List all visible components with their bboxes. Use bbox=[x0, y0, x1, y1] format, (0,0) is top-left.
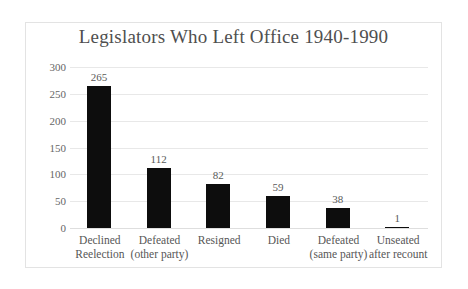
x-label-line1: Defeated bbox=[139, 234, 181, 246]
bar-value-label: 112 bbox=[130, 153, 188, 165]
bar-group[interactable]: 1 bbox=[368, 67, 426, 228]
y-axis-labels: 050100150200250300 bbox=[22, 67, 66, 228]
x-label-line1: Resigned bbox=[198, 234, 241, 246]
y-tick-label-200: 200 bbox=[26, 116, 66, 127]
bar[interactable] bbox=[266, 196, 290, 228]
bar-value-label: 1 bbox=[368, 212, 426, 224]
bar[interactable] bbox=[326, 208, 350, 228]
x-label-line1: Declined bbox=[79, 234, 121, 246]
y-tick-label-250: 250 bbox=[26, 89, 66, 100]
chart-title: Legislators Who Left Office 1940-1990 bbox=[25, 26, 442, 48]
bar-value-label: 82 bbox=[189, 169, 247, 181]
bar[interactable] bbox=[206, 184, 230, 228]
x-label-line2: after recount bbox=[362, 247, 434, 261]
x-label-line1: Died bbox=[268, 234, 290, 246]
bar-group[interactable]: 38 bbox=[309, 67, 367, 228]
x-label-line2: (other party) bbox=[124, 247, 196, 261]
x-axis-labels: DeclinedReelectionDefeated(other party)R… bbox=[70, 233, 428, 267]
bar-value-label: 59 bbox=[249, 181, 307, 193]
y-tick-label-0: 0 bbox=[26, 223, 66, 234]
x-label-line1: Unseated bbox=[377, 234, 420, 246]
x-axis-category-label: Unseatedafter recount bbox=[362, 233, 434, 261]
bar-group[interactable]: 112 bbox=[130, 67, 188, 228]
chart-screenshot: Legislators Who Left Office 1940-1990 05… bbox=[0, 0, 468, 289]
gridline-0 bbox=[70, 228, 428, 229]
x-label-line1: Defeated bbox=[318, 234, 360, 246]
y-tick-label-300: 300 bbox=[26, 62, 66, 73]
bar-series: 2651128259381 bbox=[70, 67, 428, 228]
bar-value-label: 265 bbox=[70, 71, 128, 83]
bar-group[interactable]: 82 bbox=[189, 67, 247, 228]
bar-value-label: 38 bbox=[309, 193, 367, 205]
bar[interactable] bbox=[87, 86, 111, 228]
y-tick-label-100: 100 bbox=[26, 169, 66, 180]
bar-group[interactable]: 265 bbox=[70, 67, 128, 228]
bar-group[interactable]: 59 bbox=[249, 67, 307, 228]
plot-area: 2651128259381 bbox=[70, 67, 428, 228]
bar[interactable] bbox=[147, 168, 171, 228]
y-tick-label-150: 150 bbox=[26, 143, 66, 154]
y-tick-label-50: 50 bbox=[26, 196, 66, 207]
bar[interactable] bbox=[385, 227, 409, 228]
